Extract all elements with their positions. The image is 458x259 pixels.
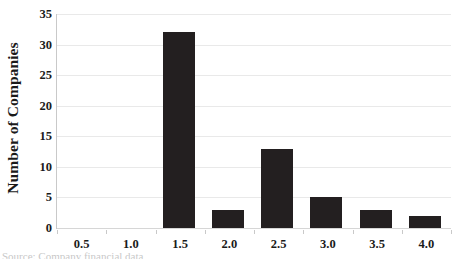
bar	[163, 32, 195, 228]
x-axis-tick-label: 2.0	[205, 236, 254, 252]
bar	[360, 210, 392, 228]
x-axis-tick-label: 3.5	[353, 236, 402, 252]
y-axis-tick-label: 10	[28, 161, 52, 174]
bar-slot	[402, 14, 451, 228]
x-axis-tick-mark	[106, 230, 107, 234]
x-axis-tick-mark	[353, 230, 354, 234]
x-axis-tick-mark	[205, 230, 206, 234]
bar	[212, 210, 244, 228]
bar	[261, 149, 293, 228]
x-axis-tick-labels: 0.51.01.52.02.53.03.54.0	[57, 230, 451, 248]
x-axis-tick-mark	[451, 230, 452, 234]
x-axis-tick-label: 1.5	[156, 236, 205, 252]
x-axis-tick-label: 1.0	[106, 236, 155, 252]
bar-slot	[57, 14, 106, 228]
bar-slot	[205, 14, 254, 228]
bar-slot	[303, 14, 352, 228]
y-axis-title: Number of Companies	[0, 0, 26, 236]
y-axis-tick-label: 5	[28, 191, 52, 204]
y-axis-tick-label: 25	[28, 69, 52, 82]
x-axis-tick-label: 3.0	[303, 236, 352, 252]
y-axis-tick-labels: 05101520253035	[25, 14, 52, 228]
bar-series	[57, 14, 451, 228]
y-axis-tick-label: 0	[28, 222, 52, 235]
y-axis-tick-label: 15	[28, 130, 52, 143]
x-axis-tick-mark	[156, 230, 157, 234]
footer-caption-text: Source: Company financial data	[2, 251, 458, 259]
y-axis-tick-label: 30	[28, 38, 52, 51]
bar-slot	[254, 14, 303, 228]
x-axis-tick-mark	[254, 230, 255, 234]
footer-caption: Source: Company financial data	[2, 251, 458, 259]
bar-slot	[156, 14, 205, 228]
bar-slot	[106, 14, 155, 228]
x-axis-tick-mark	[402, 230, 403, 234]
bar-slot	[353, 14, 402, 228]
bar	[409, 216, 441, 228]
x-axis-tick-mark	[303, 230, 304, 234]
bar	[310, 197, 342, 228]
x-axis-tick-label: 4.0	[402, 236, 451, 252]
bar-chart: Number of Companies 05101520253035 0.51.…	[0, 0, 458, 259]
x-axis-tick-mark	[57, 230, 58, 234]
y-axis-title-label: Number of Companies	[4, 42, 22, 193]
x-axis-tick-label: 2.5	[254, 236, 303, 252]
plot-area	[57, 14, 451, 228]
gridline	[57, 228, 451, 229]
y-axis-tick-label: 20	[28, 99, 52, 112]
x-axis-tick-label: 0.5	[57, 236, 106, 252]
y-axis-tick-label: 35	[28, 8, 52, 21]
